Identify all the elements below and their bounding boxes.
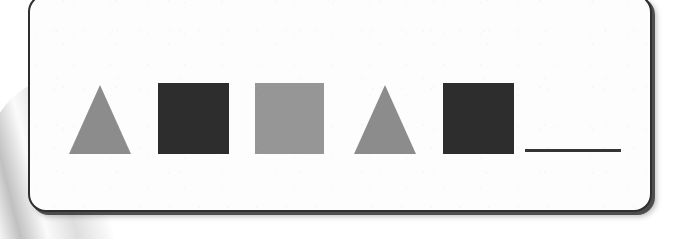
sequence-slot-2 <box>146 74 241 154</box>
sequence-slot-3 <box>241 74 338 154</box>
square-shape-2 <box>158 83 229 154</box>
worksheet-card <box>28 0 652 212</box>
worksheet-card-inner <box>30 0 650 210</box>
sequence-slot-4 <box>338 74 432 154</box>
shape-pattern-sequence <box>54 74 630 154</box>
sequence-slot-6-answer[interactable] <box>525 74 621 154</box>
answer-blank-line[interactable] <box>525 149 621 152</box>
square-shape-5 <box>443 83 514 154</box>
square-shape-3 <box>255 83 324 154</box>
sequence-slot-1 <box>54 74 146 154</box>
triangle-shape-4 <box>354 85 416 154</box>
triangle-shape-1 <box>69 85 131 154</box>
scanned-worksheet-page <box>0 0 684 239</box>
sequence-slot-5 <box>432 74 525 154</box>
